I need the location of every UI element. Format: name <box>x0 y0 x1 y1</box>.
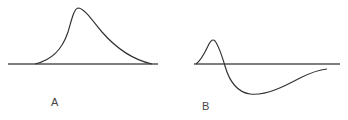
panel-label-a: A <box>51 96 58 108</box>
panel-label-b: B <box>202 100 209 112</box>
monophasic-curve <box>35 8 152 64</box>
panel-b <box>194 40 340 94</box>
biphasic-curve <box>196 40 327 94</box>
panel-a <box>8 8 158 64</box>
waveform-figure: A B <box>0 0 348 120</box>
